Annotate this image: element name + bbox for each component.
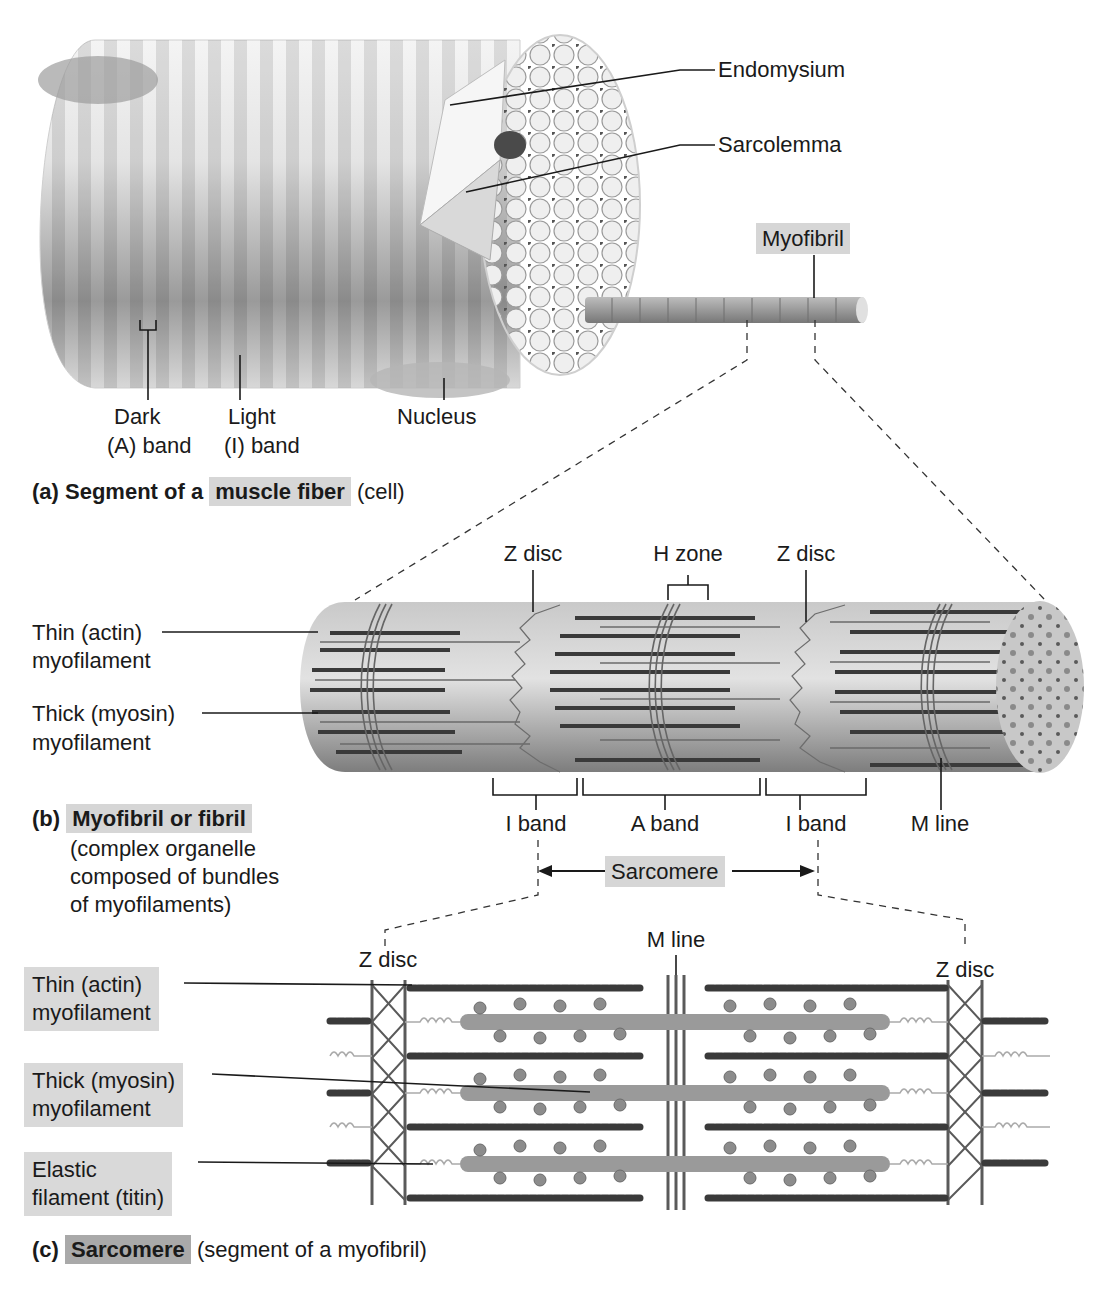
label-z-disc-left-c: Z disc [359,946,418,973]
label-box-elastic-filament-c: Elastic filament (titin) [24,1152,172,1216]
label-z-disc-right-b: Z disc [777,540,836,567]
label-thin-filament-c-line1: Thin (actin) [32,971,151,999]
label-myofibril: Myofibril [756,223,850,254]
caption-a-highlight: muscle fiber [209,477,351,506]
label-elastic-filament-c-line2: filament (titin) [32,1184,164,1212]
label-thin-filament-c-line2: myofilament [32,999,151,1027]
label-light-band-line1: Light [228,403,276,430]
label-sarcolemma: Sarcolemma [718,131,841,158]
label-nucleus: Nucleus [397,403,476,430]
caption-a-suffix: (cell) [357,479,405,504]
label-thick-filament-c-line1: Thick (myosin) [32,1067,175,1095]
caption-c-suffix: (segment of a myofibril) [197,1237,427,1262]
nucleus-top-icon [38,56,158,104]
caption-c-highlight: Sarcomere [65,1235,191,1264]
caption-a-letter: (a) [32,479,59,504]
caption-b: (b) Myofibril or fibril [32,805,252,833]
label-thick-filament-c-line2: myofilament [32,1095,175,1123]
label-a-band: A band [631,810,700,837]
label-dark-band-line1: Dark [114,403,160,430]
muscle-anatomy-figure: Endomysium Sarcolemma Myofibril Dark (A)… [0,0,1117,1294]
label-thick-filament-b-line1: Thick (myosin) [32,700,175,727]
caption-a: (a) Segment of a muscle fiber (cell) [32,478,405,506]
myofibril-rod [585,297,865,323]
myofibril-illustration [300,601,1084,773]
caption-c-letter: (c) [32,1237,59,1262]
muscle-fiber-illustration [38,35,868,398]
caption-b-highlight: Myofibril or fibril [66,804,252,833]
label-i-band-right: I band [785,810,846,837]
label-thin-filament-b-line2: myofilament [32,647,151,674]
label-box-thin-filament-c: Thin (actin) myofilament [24,967,159,1031]
label-elastic-filament-c-line1: Elastic [32,1156,164,1184]
label-m-line-b: M line [911,810,970,837]
label-i-band-left: I band [505,810,566,837]
nucleus-bottom-icon [370,362,510,398]
label-h-zone: H zone [653,540,723,567]
caption-b-desc-line3: of myofilaments) [70,892,231,918]
nucleus-inner-icon [494,131,526,159]
label-thin-filament-b-line1: Thin (actin) [32,619,142,646]
label-dark-band-line2: (A) band [107,432,191,459]
label-sarcomere: Sarcomere [605,856,725,887]
label-endomysium: Endomysium [718,56,845,83]
caption-a-prefix: Segment of a [65,479,203,504]
label-light-band-line2: (I) band [224,432,300,459]
caption-c: (c) Sarcomere (segment of a myofibril) [32,1236,427,1264]
myosin-filaments-c [460,998,890,1186]
caption-b-desc-line2: composed of bundles [70,864,279,890]
label-box-thick-filament-c: Thick (myosin) myofilament [24,1063,183,1127]
label-m-line-c: M line [647,926,706,953]
sarcomere-illustration [330,975,1050,1210]
caption-b-desc-line1: (complex organelle [70,836,256,862]
label-z-disc-left-b: Z disc [504,540,563,567]
caption-b-letter: (b) [32,806,60,831]
label-z-disc-right-c: Z disc [936,956,995,983]
label-thick-filament-b-line2: myofilament [32,729,151,756]
